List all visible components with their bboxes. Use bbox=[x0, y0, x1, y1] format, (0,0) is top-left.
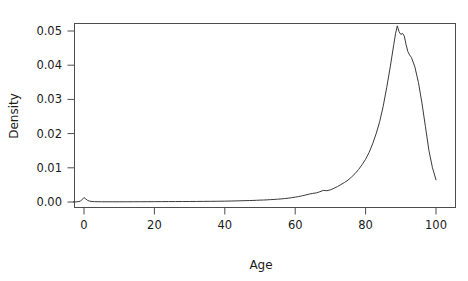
y-tick-label: 0.02 bbox=[36, 127, 62, 141]
plot-canvas: 020406080100 0.000.010.020.030.040.05 Ag… bbox=[0, 0, 468, 281]
x-axis-title: Age bbox=[249, 258, 272, 272]
y-tick-label: 0.00 bbox=[36, 195, 62, 209]
plot-frame-box bbox=[75, 24, 456, 208]
y-tick-label: 0.03 bbox=[36, 92, 62, 106]
x-tick-label: 40 bbox=[217, 218, 232, 232]
x-axis-tick-labels: 020406080100 bbox=[80, 218, 447, 232]
y-axis-title: Density bbox=[7, 93, 21, 139]
y-tick-label: 0.04 bbox=[36, 58, 62, 72]
density-curve-line bbox=[73, 26, 436, 202]
x-tick-label: 20 bbox=[147, 218, 162, 232]
x-tick-label: 0 bbox=[80, 218, 87, 232]
density-plot-figure: 020406080100 0.000.010.020.030.040.05 Ag… bbox=[0, 0, 468, 281]
x-tick-label: 60 bbox=[288, 218, 303, 232]
x-tick-label: 80 bbox=[358, 218, 373, 232]
y-axis-ticks bbox=[68, 31, 75, 202]
x-tick-label: 100 bbox=[425, 218, 447, 232]
y-tick-label: 0.05 bbox=[36, 24, 62, 38]
y-tick-label: 0.01 bbox=[36, 161, 62, 175]
y-axis-tick-labels: 0.000.010.020.030.040.05 bbox=[36, 24, 62, 209]
x-axis-ticks bbox=[84, 208, 436, 215]
